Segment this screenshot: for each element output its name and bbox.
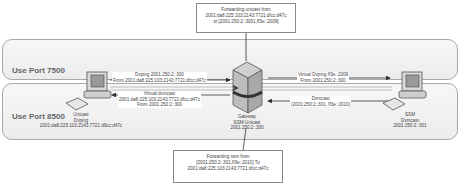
computer-icon-left: [66, 72, 111, 110]
note-forwarding-unicast: Forwarding unicast from 2001:da8:225:103…: [196, 3, 296, 33]
node-caption-gateway: Gateway SSM-Unicast 2001:250:2::300: [222, 114, 272, 131]
caption-line: 2001:da8:225:103:2143:7721:d9cc:d47c: [36, 123, 126, 129]
flow-label-virtual-dvping: Virtual Dvping ff3e::2009 From 2001:250:…: [297, 72, 349, 83]
flow-label-dvmcast: Dvmcast (2001:250:2::301, ff3e::2010): [290, 96, 351, 107]
flow-label-dvping: Dvping 2001:250:2::300 From 2001:da8:225…: [112, 72, 207, 83]
caption-line: 2001:250:2::300: [222, 125, 272, 131]
flow-line: From 2001:da8:225:103:2143:7721:dfcc:d47…: [113, 78, 206, 84]
gateway-cube-icon: [233, 62, 262, 113]
node-caption-right-host: SSM Dvmcast 2001:250:2::301: [385, 112, 435, 129]
note-forwarding-ssm: Forwarding ssm from [2001:250:2::301,ff3…: [173, 150, 283, 183]
flow-line: From 2001:250:2::300: [298, 78, 348, 84]
flow-label-virtual-dvmcast: Virtual dvmcast 2001:da8:225:103:2143:77…: [118, 91, 201, 108]
caption-line: 2001:250:2::301: [385, 123, 435, 129]
flow-line: Virtual Dvping ff3e::2009: [298, 72, 348, 78]
node-caption-left-host: Unicast Dvping 2001:da8:225:103:2143:772…: [36, 112, 126, 129]
flow-line: From 2001:250:2::300: [119, 102, 200, 108]
note-line: to [2001:250:2::3001,ff3e::2009]: [197, 19, 295, 25]
note-line: 2001:da8:225:103:2143:7721:dfcc:d47c: [174, 166, 282, 172]
flow-line: (2001:250:2::301, ff3e::2010): [291, 102, 350, 108]
